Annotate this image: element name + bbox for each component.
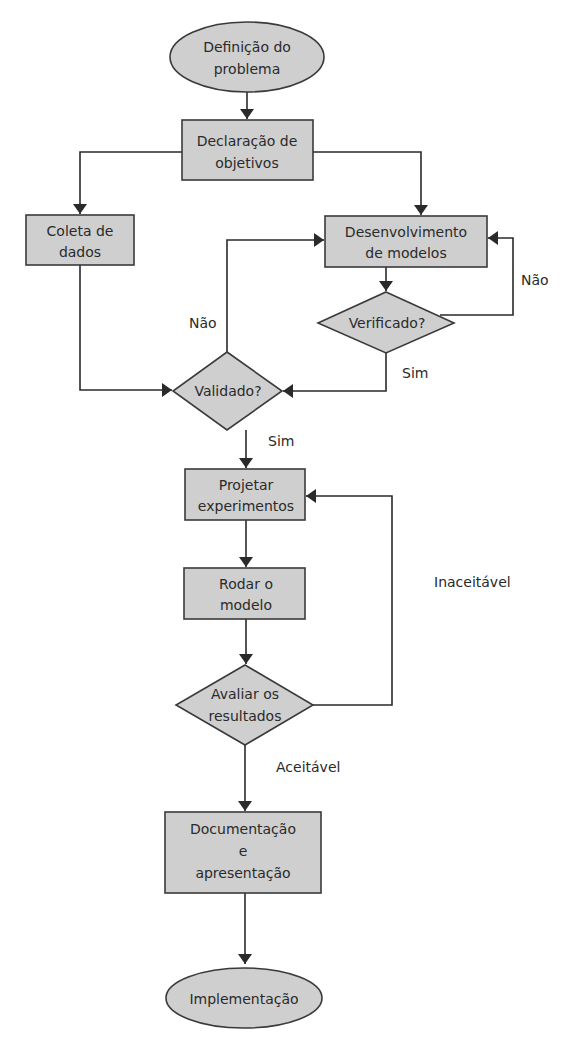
node-declaracao: Declaração de objetivos [182, 120, 313, 180]
flowchart-canvas: Definição do problema Declaração de obje… [0, 0, 569, 1047]
node-label: modelo [220, 597, 272, 613]
edge-validado-nao [227, 240, 324, 352]
edge-verificado-sim [283, 353, 386, 391]
diamond-shape [176, 665, 313, 745]
node-label: objetivos [215, 155, 278, 171]
label-validado-sim: Sim [268, 433, 294, 449]
node-label: Rodar o [219, 576, 273, 592]
node-label: Documentação [190, 821, 296, 837]
node-label: Declaração de [197, 133, 298, 149]
node-label: problema [214, 61, 281, 77]
label-validado-nao: Não [189, 315, 217, 331]
node-label: experimentos [198, 498, 294, 514]
node-label: Definição do [203, 39, 291, 55]
node-label: Avaliar os [211, 686, 279, 702]
label-verificado-nao: Não [521, 272, 549, 288]
node-label: de modelos [365, 245, 446, 261]
ellipse-shape [170, 22, 324, 92]
node-label: resultados [209, 708, 282, 724]
node-validado: Validado? [173, 352, 282, 430]
edge-coleta-validado [80, 265, 172, 390]
node-label: Projetar [219, 477, 274, 493]
edge-declaracao-coleta [80, 152, 182, 214]
edge-avaliar-inaceitavel [306, 496, 392, 705]
label-avaliar-inaceitavel: Inaceitável [434, 574, 511, 590]
label-avaliar-aceitavel: Aceitável [276, 759, 340, 775]
node-documentacao: Documentação e apresentação [165, 812, 321, 893]
node-projetar: Projetar experimentos [185, 469, 305, 520]
node-label: Validado? [194, 383, 261, 399]
node-coleta: Coleta de dados [26, 215, 134, 265]
node-rodar: Rodar o modelo [184, 568, 305, 619]
node-verificado: Verificado? [318, 292, 454, 353]
label-verificado-sim: Sim [402, 365, 428, 381]
node-label: dados [59, 244, 101, 260]
node-label: e [239, 843, 248, 859]
node-desenvolvimento: Desenvolvimento de modelos [325, 216, 487, 267]
node-label: Desenvolvimento [345, 224, 467, 240]
node-label: Verificado? [349, 315, 426, 331]
node-definicao: Definição do problema [170, 22, 324, 92]
node-label: Coleta de [47, 223, 114, 239]
node-label: Implementação [189, 991, 298, 1007]
node-avaliar: Avaliar os resultados [176, 665, 313, 745]
node-label: apresentação [195, 865, 290, 881]
node-implementacao: Implementação [166, 968, 322, 1028]
edge-declaracao-desenvolvimento [313, 152, 421, 215]
rect-shape [182, 120, 313, 180]
